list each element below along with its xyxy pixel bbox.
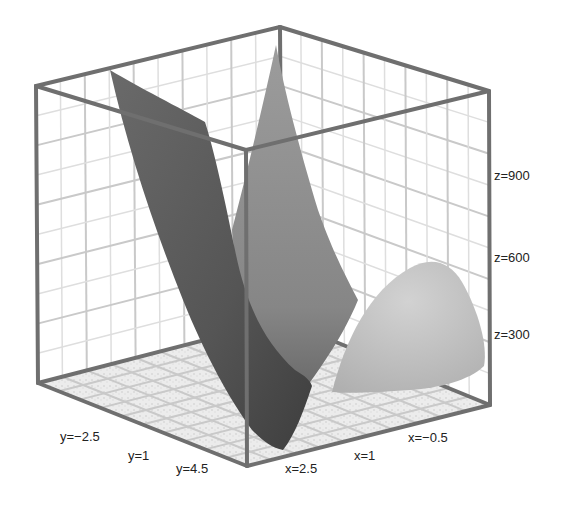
box-edge	[246, 150, 247, 466]
surface-plot: y=−2.5y=1y=4.5x=2.5x=1x=−0.5z=300z=600z=…	[0, 0, 569, 506]
z-tick-label: z=900	[494, 168, 530, 183]
y-tick-label: y=1	[128, 448, 149, 463]
surface-dome	[332, 262, 485, 393]
z-tick-label: z=600	[494, 250, 530, 265]
x-tick-label: x=2.5	[285, 461, 317, 476]
x-tick-label: x=−0.5	[408, 430, 448, 445]
z-tick-label: z=300	[494, 327, 530, 342]
x-tick-label: x=1	[354, 448, 375, 463]
box-edge	[36, 86, 38, 383]
y-tick-label: y=4.5	[176, 461, 208, 476]
box-edge	[489, 91, 490, 405]
y-tick-label: y=−2.5	[60, 429, 100, 444]
